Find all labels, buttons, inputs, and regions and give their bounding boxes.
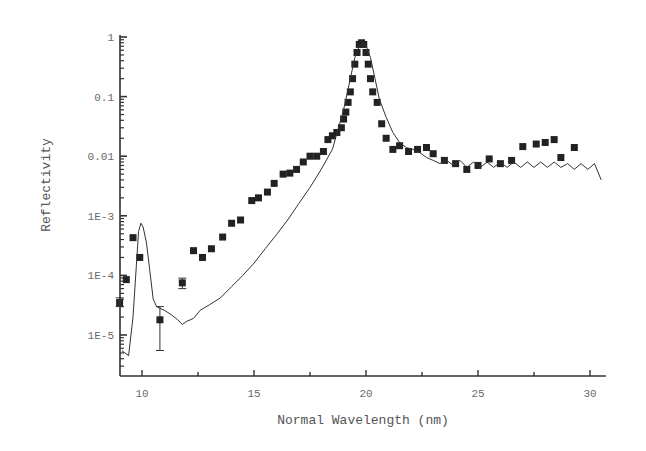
y-tick-label: 1E-5 — [88, 330, 114, 342]
data-point-marker — [365, 61, 372, 68]
data-point-marker — [396, 142, 403, 149]
x-tick-label: 15 — [247, 388, 260, 400]
data-point-marker — [551, 136, 558, 143]
data-point-marker — [307, 153, 314, 160]
x-axis-title: Normal Wavelength (nm) — [277, 413, 449, 428]
data-point-marker — [508, 157, 515, 164]
data-point-marker — [369, 88, 376, 95]
data-point-marker — [237, 217, 244, 224]
data-point-marker — [378, 120, 385, 127]
data-point-marker — [123, 276, 130, 283]
data-point-marker — [300, 158, 307, 165]
data-point-marker — [156, 316, 163, 323]
data-point-marker — [533, 141, 540, 148]
data-point-marker — [320, 148, 327, 155]
data-point-marker — [486, 155, 493, 162]
data-point-marker — [130, 234, 137, 241]
x-tick-label: 30 — [583, 388, 596, 400]
data-point-marker — [286, 170, 293, 177]
data-point-marker — [557, 154, 564, 161]
y-tick-label: 1E-4 — [88, 270, 115, 282]
y-tick-label: 1 — [107, 32, 114, 44]
data-point-marker — [313, 153, 320, 160]
x-axis-ticks: 1015202530 — [135, 370, 596, 400]
data-point-marker — [423, 144, 430, 151]
x-tick-label: 25 — [471, 388, 484, 400]
data-point-marker — [280, 171, 287, 178]
data-point-marker — [190, 247, 197, 254]
plot-series — [116, 39, 602, 355]
data-point-marker — [519, 143, 526, 150]
y-axis-ticks: 1E-51E-41E-30.010.11 — [88, 32, 127, 366]
data-point-marker — [271, 180, 278, 187]
data-point-marker — [293, 166, 300, 173]
y-tick-label: 1E-3 — [88, 211, 114, 223]
data-point-marker — [219, 234, 226, 241]
data-point-marker — [430, 150, 437, 157]
data-point-marker — [389, 146, 396, 153]
data-point-marker — [367, 75, 374, 82]
data-point-marker — [179, 279, 186, 286]
data-point-marker — [542, 139, 549, 146]
axes: 1015202530 1E-51E-41E-30.010.11 — [88, 32, 606, 400]
data-point-marker — [228, 220, 235, 227]
reflectivity-chart: 1015202530 1E-51E-41E-30.010.11 Normal W… — [0, 0, 646, 451]
x-tick-label: 10 — [135, 388, 148, 400]
data-point-marker — [248, 197, 255, 204]
data-point-marker — [255, 194, 262, 201]
data-point-marker — [199, 254, 206, 261]
data-point-marker — [571, 144, 578, 151]
y-axis-title: Reflectivity — [39, 138, 54, 232]
data-point-marker — [351, 61, 358, 68]
calculated-curve — [122, 43, 601, 355]
data-point-marker — [264, 189, 271, 196]
x-tick-label: 20 — [359, 388, 372, 400]
data-point-marker — [208, 245, 215, 252]
data-point-marker — [383, 135, 390, 142]
y-tick-label: 0.01 — [88, 151, 115, 163]
y-tick-label: 0.1 — [94, 92, 114, 104]
